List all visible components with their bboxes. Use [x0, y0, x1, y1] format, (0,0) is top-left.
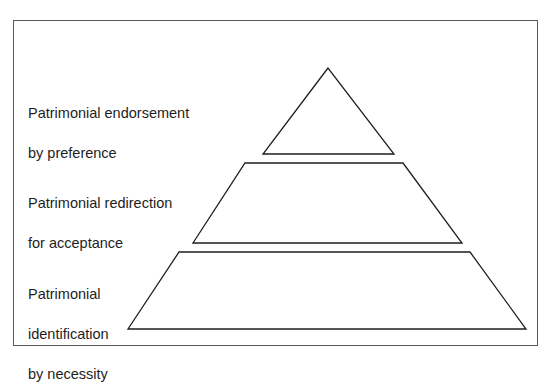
label-top-line-1: Patrimonial endorsement: [28, 103, 189, 123]
label-bottom-line-2: identification: [28, 324, 109, 344]
label-top-level: Patrimonial endorsement by preference: [28, 83, 189, 183]
label-middle-level: Patrimonial redirection for acceptance: [28, 173, 172, 273]
label-middle-line-2: for acceptance: [28, 233, 172, 253]
label-bottom-level: Patrimonial identification by necessity: [28, 264, 109, 386]
label-bottom-line-3: by necessity: [28, 364, 109, 384]
pyramid-level-middle-trapezoid: [193, 163, 462, 243]
label-bottom-line-1: Patrimonial: [28, 284, 109, 304]
label-top-line-2: by preference: [28, 143, 189, 163]
pyramid-level-bottom-trapezoid: [128, 252, 526, 329]
pyramid-level-top-triangle: [263, 68, 394, 154]
label-middle-line-1: Patrimonial redirection: [28, 193, 172, 213]
